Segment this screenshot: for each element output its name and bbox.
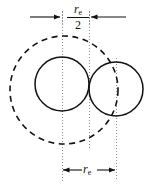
bottom-dimension-subscript: e (88, 168, 92, 177)
figure-container: re 2 re (0, 0, 154, 185)
top-dimension-numerator: re (67, 3, 89, 16)
reference-circle-dashed (10, 36, 118, 144)
bottom-dimension-label: re (83, 163, 91, 175)
top-dimension-label: re 2 (67, 3, 89, 31)
bottom-dimension-symbol: r (83, 162, 88, 176)
center-lines-group (62, 12, 116, 181)
top-dimension-denominator: 2 (67, 19, 89, 32)
top-dimension-numerator-subscript: e (79, 8, 83, 17)
